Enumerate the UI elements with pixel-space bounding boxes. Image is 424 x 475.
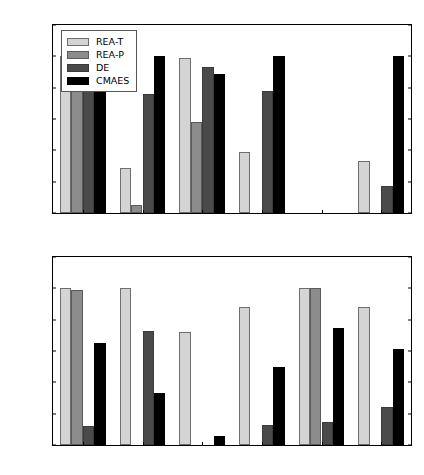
bar-rastrigin-cmaes bbox=[273, 56, 284, 213]
x-axis-tick-mark bbox=[322, 442, 323, 445]
bar-rosenbrock-de bbox=[83, 426, 94, 445]
y-axis-tick-mark-right bbox=[408, 87, 411, 88]
bar-langerman-cmaes bbox=[273, 367, 284, 445]
y-axis-tick-mark-right bbox=[408, 351, 411, 352]
x-axis-tick-mark bbox=[83, 210, 84, 213]
y-axis-tick-mark-right bbox=[408, 150, 411, 151]
y-axis-tick-mark-right bbox=[408, 382, 411, 383]
bar-ackley-de bbox=[143, 94, 154, 213]
x-axis-tick-mark bbox=[143, 210, 144, 213]
bar-chart-figure: 0.00.20.40.60.81.01.2sphereackleylog-ack… bbox=[0, 0, 424, 475]
legend-item-cmaes: CMAES bbox=[67, 74, 129, 87]
x-axis-tick-mark bbox=[262, 210, 263, 213]
y-axis-tick-mark-right bbox=[408, 257, 411, 258]
bar-shekel-cmaes bbox=[214, 436, 225, 445]
bar-langerman-rea-t bbox=[239, 307, 250, 445]
chart-legend: REA-TREA-PDECMAES bbox=[61, 30, 137, 92]
bar-schwefel-de bbox=[143, 331, 154, 445]
bar-ackley-cmaes bbox=[154, 56, 165, 213]
x-axis-tick-mark bbox=[381, 210, 382, 213]
y-axis-tick-mark bbox=[53, 56, 56, 57]
y-axis-tick-mark bbox=[53, 150, 56, 151]
y-axis-tick-mark-right bbox=[408, 213, 411, 214]
x-axis-tick-mark bbox=[83, 442, 84, 445]
chart-panel-bottom: 0.00.20.40.60.81.01.2rosenbrockschwefels… bbox=[0, 246, 424, 468]
bar-shekel-rea-t bbox=[179, 332, 190, 445]
y-axis-tick-mark-right bbox=[408, 288, 411, 289]
y-axis-tick-mark bbox=[53, 181, 56, 182]
x-axis-tick-mark bbox=[202, 210, 203, 213]
bar-rosenbrock-rea-t bbox=[60, 288, 71, 445]
bar-weierstrass-cmaes bbox=[393, 349, 404, 445]
bar-whitley-rea-t bbox=[299, 288, 310, 445]
bar-whitley-rea-p bbox=[310, 288, 321, 445]
bar-log-ackley-cmaes bbox=[214, 74, 225, 213]
legend-item-de: DE bbox=[67, 61, 129, 74]
y-axis-tick-mark bbox=[53, 25, 56, 26]
chart-panel-top: 0.00.20.40.60.81.01.2sphereackleylog-ack… bbox=[0, 14, 424, 236]
legend-item-label: DE bbox=[96, 63, 109, 73]
y-axis-tick-mark bbox=[53, 445, 56, 446]
y-axis-tick-mark bbox=[53, 119, 56, 120]
y-axis-tick-mark-right bbox=[408, 56, 411, 57]
y-axis-tick-mark-right bbox=[408, 445, 411, 446]
bar-weierstrass-de bbox=[381, 407, 392, 445]
plot-area-top: 0.00.20.40.60.81.01.2sphereackleylog-ack… bbox=[52, 24, 412, 214]
x-axis-tick-mark bbox=[262, 442, 263, 445]
bar-whitley-cmaes bbox=[333, 328, 344, 446]
bar-weierstrass-rea-t bbox=[358, 307, 369, 445]
y-axis-tick-mark bbox=[53, 351, 56, 352]
plot-area-bottom: 0.00.20.40.60.81.01.2rosenbrockschwefels… bbox=[52, 256, 412, 446]
legend-item-rea-t: REA-T bbox=[67, 35, 129, 48]
x-axis-tick-mark bbox=[143, 442, 144, 445]
axes-bottom: 0.00.20.40.60.81.01.2rosenbrockschwefels… bbox=[52, 256, 412, 446]
legend-item-label: REA-T bbox=[96, 37, 123, 47]
bar-schwefel-rea-t bbox=[120, 288, 131, 445]
y-axis-tick-mark bbox=[53, 382, 56, 383]
x-axis-tick-mark bbox=[381, 442, 382, 445]
y-axis-tick-mark-right bbox=[408, 119, 411, 120]
y-axis-tick-mark-right bbox=[408, 25, 411, 26]
legend-swatch-icon bbox=[67, 51, 89, 59]
legend-item-label: REA-P bbox=[96, 50, 124, 60]
bar-log-ackley-rea-p bbox=[191, 122, 202, 213]
y-axis-tick-mark-right bbox=[408, 319, 411, 320]
bar-rastrigin-rea-t bbox=[239, 152, 250, 213]
bar-griewank-cmaes bbox=[393, 56, 404, 213]
bar-rosenbrock-rea-p bbox=[71, 290, 82, 445]
bar-griewank-de bbox=[381, 186, 392, 213]
legend-item-label: CMAES bbox=[96, 76, 129, 86]
x-axis-tick-mark bbox=[322, 210, 323, 213]
x-axis-tick-mark bbox=[202, 442, 203, 445]
bar-whitley-de bbox=[322, 422, 333, 446]
legend-swatch-icon bbox=[67, 38, 89, 46]
bar-rosenbrock-cmaes bbox=[94, 343, 105, 445]
y-axis-tick-mark bbox=[53, 413, 56, 414]
bar-ackley-rea-t bbox=[120, 168, 131, 213]
bar-griewank-rea-t bbox=[358, 161, 369, 213]
bar-ackley-rea-p bbox=[131, 205, 142, 213]
legend-swatch-icon bbox=[67, 77, 89, 85]
y-axis-tick-mark bbox=[53, 87, 56, 88]
y-axis-tick-mark bbox=[53, 257, 56, 258]
bar-schwefel-cmaes bbox=[154, 393, 165, 445]
bar-log-ackley-rea-t bbox=[179, 58, 190, 213]
y-axis-tick-mark-right bbox=[408, 413, 411, 414]
bar-langerman-de bbox=[262, 425, 273, 445]
y-axis-tick-mark bbox=[53, 288, 56, 289]
legend-swatch-icon bbox=[67, 64, 89, 72]
bar-rastrigin-de bbox=[262, 91, 273, 213]
y-axis-tick-mark bbox=[53, 319, 56, 320]
y-axis-tick-mark-right bbox=[408, 181, 411, 182]
legend-item-rea-p: REA-P bbox=[67, 48, 129, 61]
bar-log-ackley-de bbox=[202, 67, 213, 213]
y-axis-tick-mark bbox=[53, 213, 56, 214]
